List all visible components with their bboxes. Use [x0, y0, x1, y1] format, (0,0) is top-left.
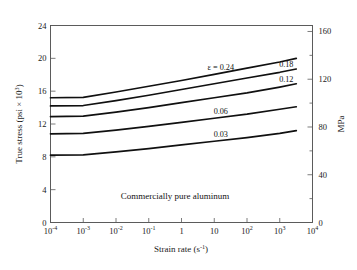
data-curve: [51, 69, 297, 106]
y-axis-left-title: True stress (psi × 103): [13, 84, 25, 163]
x-tick-label: 10: [210, 226, 219, 236]
x-tick-label: 10-3: [77, 225, 91, 235]
y-left-tick-label: 8: [42, 152, 46, 162]
y-axis-right-title: MPa: [336, 115, 346, 132]
x-tick-label: 10-2: [109, 225, 123, 235]
y-axis-left-ticks: 04812162024: [38, 21, 56, 228]
y-left-tick-label: 20: [38, 53, 47, 63]
x-tick-label: 1: [179, 226, 183, 236]
y-right-tick-label: 80: [319, 122, 328, 132]
x-tick-label: 10-1: [142, 225, 156, 235]
curve-label: ε = 0.24: [208, 63, 234, 72]
curve-label: 0.12: [279, 75, 293, 84]
curve-label: 0.18: [279, 60, 293, 69]
data-curve: [51, 131, 297, 156]
y-axis-right-ticks: 04080120160: [308, 26, 332, 227]
x-axis-ticks: 10-410-310-210-1110102103104: [44, 218, 319, 236]
chart-canvas: 10-410-310-210-1110102103104 04812162024…: [0, 0, 357, 270]
y-right-tick-label: 120: [319, 74, 332, 84]
y-right-tick-label: 0: [319, 218, 323, 228]
y-right-tick-label: 160: [319, 26, 332, 36]
y-left-tick-label: 0: [42, 218, 46, 228]
chart-figure: 10-410-310-210-1110102103104 04812162024…: [0, 0, 357, 270]
x-tick-label: 103: [274, 225, 286, 235]
data-curves: [51, 58, 297, 155]
y-left-tick-label: 12: [38, 119, 47, 129]
data-curve: [51, 107, 297, 134]
curve-label: 0.06: [214, 107, 228, 116]
y-right-tick-label: 40: [319, 170, 328, 180]
y-left-tick-label: 24: [38, 21, 47, 31]
chart-annotation: Commercially pure aluminum: [121, 191, 229, 201]
curve-label: 0.03: [214, 130, 228, 139]
data-curve: [51, 58, 297, 97]
y-left-tick-label: 16: [38, 86, 47, 96]
x-tick-label: 102: [241, 225, 253, 235]
y-left-tick-label: 4: [42, 185, 47, 195]
x-axis-title: Strain rate (s-1): [154, 243, 208, 255]
x-tick-label: 104: [307, 225, 319, 235]
